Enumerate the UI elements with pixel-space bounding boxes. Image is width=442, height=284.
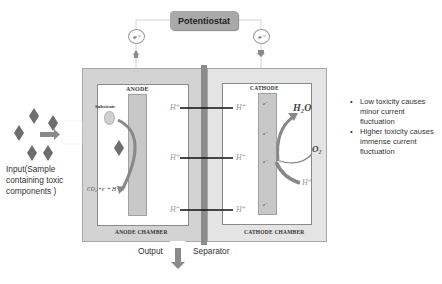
proton-left: H⁺ [170, 205, 180, 214]
proton-left: H⁺ [170, 153, 180, 162]
toxic-component-icon [14, 125, 24, 141]
input-arrow-icon [54, 129, 60, 140]
input-label: Input(Sample containing toxic components… [6, 164, 63, 197]
note-item: • Higher toxicity causes immense current… [350, 127, 442, 157]
proton-right: H⁺ [236, 103, 246, 112]
proton-left: H⁺ [170, 103, 180, 112]
proton-right: H⁺ [236, 153, 246, 162]
separator-label: Separator [193, 246, 229, 256]
toxic-component-icon [27, 145, 37, 161]
output-label: Output [138, 246, 163, 256]
toxic-component-icon [29, 108, 39, 124]
toxic-component-icon [43, 145, 53, 161]
toxicity-notes: • Low toxicity causes minor current fluc… [350, 97, 442, 157]
toxic-component-icon [48, 115, 58, 131]
note-item: • Low toxicity causes minor current fluc… [350, 97, 442, 127]
anode-arrow-head-icon [117, 186, 126, 194]
toxic-component-icon [114, 140, 124, 156]
output-arrow-icon [171, 262, 185, 269]
proton-right: H⁺ [236, 205, 246, 214]
